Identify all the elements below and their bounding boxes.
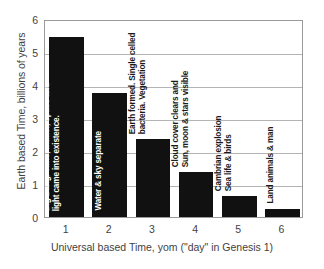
bar-slot: Cloud cover clears andSun, moon & stars … — [179, 21, 214, 217]
y-tick-label: 4 — [22, 81, 38, 92]
x-axis-tick-labels: 123456 — [44, 222, 303, 238]
bar[interactable] — [179, 172, 214, 217]
y-tick-label: 0 — [22, 213, 38, 224]
x-tick-label: 3 — [149, 222, 155, 236]
bar[interactable] — [92, 93, 127, 217]
bar-annotation-label: Cloud cover clears andSun, moon & stars … — [171, 71, 190, 167]
bar-slot: Cambrian explosionSea life & birds — [222, 21, 257, 217]
bar-annotation-label: Land animals & man — [267, 127, 277, 204]
plot-area: Big Bang. Time, matter, space andlight c… — [44, 20, 303, 218]
bars-layer: Big Bang. Time, matter, space andlight c… — [45, 21, 302, 217]
bar[interactable] — [136, 139, 171, 217]
x-tick-label: 2 — [106, 222, 112, 236]
bar[interactable] — [49, 37, 84, 217]
bar-annotation-label: Cambrian explosionSea life & birds — [214, 116, 233, 192]
y-tick-label: 2 — [22, 147, 38, 158]
x-axis-title: Universal based Time, yom ("day" in Gene… — [0, 241, 324, 253]
bar-annotation-label: Earth formed. Single celledbacteria. Veg… — [128, 33, 147, 135]
x-tick-label: 5 — [235, 222, 241, 236]
y-tick-label: 5 — [22, 48, 38, 59]
bar[interactable] — [222, 196, 257, 217]
bar-annotation-line: Cambrian explosion — [214, 116, 224, 192]
bar-chart-figure: Earth based Time, billions of years 0123… — [0, 0, 324, 269]
bar-slot: Big Bang. Time, matter, space andlight c… — [49, 21, 84, 217]
x-tick-label: 4 — [192, 222, 198, 236]
y-tick-label: 3 — [22, 114, 38, 125]
bar-annotation-line: Earth formed. Single celled — [128, 33, 138, 135]
bar-slot: Water & sky separate — [92, 21, 127, 217]
x-tick-label: 6 — [278, 222, 284, 236]
bar-slot: Earth formed. Single celledbacteria. Veg… — [136, 21, 171, 217]
bar-annotation-line: Cloud cover clears and — [171, 71, 181, 167]
bar-slot: Land animals & man — [265, 21, 300, 217]
bar-annotation-line: bacteria. Vegetation — [137, 33, 147, 135]
y-tick-label: 1 — [22, 180, 38, 191]
bar[interactable] — [265, 209, 300, 217]
x-tick-label: 1 — [63, 222, 69, 236]
bar-annotation-line: Sea life & birds — [224, 116, 234, 192]
bar-annotation-line: Land animals & man — [267, 127, 277, 204]
bar-annotation-line: Sun, moon & stars visible — [180, 71, 190, 167]
y-axis-tick-labels: 0123456 — [22, 20, 38, 218]
y-tick-label: 6 — [22, 15, 38, 26]
